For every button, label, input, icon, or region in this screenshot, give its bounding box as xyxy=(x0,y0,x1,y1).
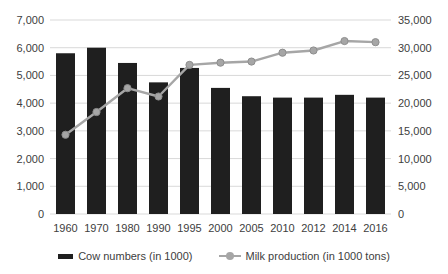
marker-2014 xyxy=(341,37,348,44)
x-axis-label-1990: 1990 xyxy=(146,222,170,234)
bar-2014 xyxy=(335,95,354,214)
left-axis-tick-label: 2,000 xyxy=(16,153,44,165)
bar-2010 xyxy=(273,98,292,214)
legend-label-milk-production: Milk production (in 1000 tons) xyxy=(246,250,390,262)
right-axis-tick-label: 15,000 xyxy=(398,125,432,137)
x-axis-label-1970: 1970 xyxy=(84,222,108,234)
marker-2010 xyxy=(279,49,286,56)
x-axis-label-2000: 2000 xyxy=(208,222,232,234)
marker-1980 xyxy=(124,85,131,92)
marker-1995 xyxy=(186,61,193,68)
right-axis-tick-label: 30,000 xyxy=(398,42,432,54)
legend-label-cow-numbers: Cow numbers (in 1000) xyxy=(78,250,192,262)
combo-chart: 01,0002,0003,0004,0005,0006,0007,00005,0… xyxy=(0,0,448,274)
bar-series-swatch-icon xyxy=(58,254,73,259)
right-axis-tick-label: 5,000 xyxy=(398,180,426,192)
bar-2012 xyxy=(304,98,323,214)
bar-2016 xyxy=(366,98,385,214)
left-axis-tick-label: 3,000 xyxy=(16,125,44,137)
left-axis-tick-label: 7,000 xyxy=(16,14,44,26)
marker-2012 xyxy=(310,47,317,54)
left-axis-tick-label: 5,000 xyxy=(16,69,44,81)
right-axis-tick-label: 20,000 xyxy=(398,97,432,109)
legend: Cow numbers (in 1000) Milk production (i… xyxy=(0,250,448,262)
right-axis-tick-label: 10,000 xyxy=(398,153,432,165)
right-axis-tick-label: 0 xyxy=(398,208,404,220)
x-axis-label-1980: 1980 xyxy=(115,222,139,234)
bar-2005 xyxy=(242,96,261,214)
left-axis-tick-label: 4,000 xyxy=(16,97,44,109)
line-marker-swatch-icon xyxy=(219,255,241,257)
marker-2016 xyxy=(372,39,379,46)
left-axis-tick-label: 1,000 xyxy=(16,180,44,192)
x-axis-label-1960: 1960 xyxy=(53,222,77,234)
legend-item-milk-production: Milk production (in 1000 tons) xyxy=(219,250,390,262)
marker-2000 xyxy=(217,59,224,66)
x-axis-label-2010: 2010 xyxy=(270,222,294,234)
marker-2005 xyxy=(248,58,255,65)
right-axis-tick-label: 25,000 xyxy=(398,69,432,81)
bar-1990 xyxy=(149,82,168,214)
x-axis-label-2012: 2012 xyxy=(301,222,325,234)
left-axis-tick-label: 0 xyxy=(38,208,44,220)
marker-1960 xyxy=(62,131,69,138)
bar-2000 xyxy=(211,88,230,214)
x-axis-label-2014: 2014 xyxy=(332,222,356,234)
marker-1990 xyxy=(155,93,162,100)
x-axis-label-2005: 2005 xyxy=(239,222,263,234)
legend-item-cow-numbers: Cow numbers (in 1000) xyxy=(58,250,192,262)
plot-area: 01,0002,0003,0004,0005,0006,0007,00005,0… xyxy=(0,0,448,248)
right-axis-tick-label: 35,000 xyxy=(398,14,432,26)
x-axis-label-1995: 1995 xyxy=(177,222,201,234)
bar-1970 xyxy=(87,48,106,214)
x-axis-label-2016: 2016 xyxy=(363,222,387,234)
bar-1995 xyxy=(180,68,199,214)
left-axis-tick-label: 6,000 xyxy=(16,42,44,54)
marker-1970 xyxy=(93,108,100,115)
